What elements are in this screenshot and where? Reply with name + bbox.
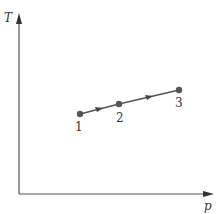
process-path bbox=[80, 90, 179, 114]
state-label-1: 1 bbox=[75, 120, 83, 134]
y-axis-label: T bbox=[4, 11, 13, 25]
state-point-2 bbox=[116, 101, 122, 107]
tp-diagram: T p 1 2 3 bbox=[0, 0, 219, 214]
y-axis-arrow-icon bbox=[16, 13, 22, 24]
state-label-3: 3 bbox=[175, 96, 183, 110]
state-point-3 bbox=[176, 87, 182, 93]
x-axis-arrow-icon bbox=[203, 191, 214, 197]
state-point-1 bbox=[77, 111, 83, 117]
x-axis-label: p bbox=[204, 199, 212, 213]
state-label-2: 2 bbox=[116, 111, 124, 125]
